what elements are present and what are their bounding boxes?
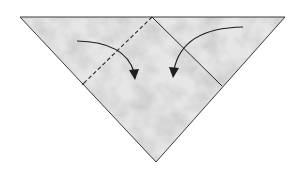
origami-diagram: [0, 0, 300, 176]
diagram-canvas: [0, 0, 300, 176]
left-vertex-dot: [82, 83, 84, 85]
paper-triangle: [20, 17, 285, 162]
